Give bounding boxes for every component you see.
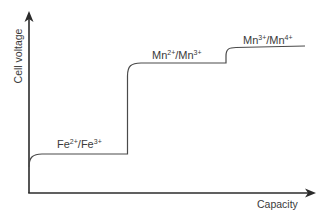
plateau-label-fe: Fe2+/Fe3+ — [57, 138, 102, 150]
x-axis-title: Capacity — [257, 198, 299, 210]
plateau-label-mn2-mn3: Mn2+/Mn3+ — [152, 49, 202, 61]
voltage-capacity-chart: Fe2+/Fe3+ Mn2+/Mn3+ Mn3+/Mn4+ Capacity C… — [0, 0, 330, 219]
voltage-curve — [29, 46, 305, 167]
plateau-label-mn3-mn4: Mn3+/Mn4+ — [243, 34, 293, 46]
y-axis-title: Cell voltage — [12, 28, 24, 83]
